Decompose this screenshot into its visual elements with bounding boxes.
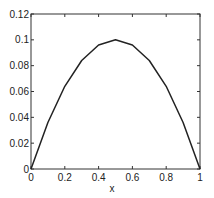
x-axis-label: x	[110, 183, 115, 194]
x-tick-label: 0.8	[159, 172, 173, 183]
y-tick-label: 0.04	[10, 112, 30, 123]
y-tick-label: 0	[23, 164, 29, 175]
y-tick-label: 0.02	[10, 138, 30, 149]
y-tick-label: 0.08	[10, 60, 30, 71]
y-tick-label: 0.12	[10, 9, 30, 20]
x-tick-label: 0.2	[58, 172, 72, 183]
x-tick-label: 0.4	[92, 172, 106, 183]
x-tick-label: 0	[28, 172, 34, 183]
y-tick-label: 0.1	[15, 34, 29, 45]
line-chart: 00.20.40.60.81 00.020.040.060.080.10.12 …	[0, 0, 214, 198]
x-tick-label: 1	[197, 172, 203, 183]
y-tick-label: 0.06	[10, 86, 30, 97]
x-tick-label: 0.6	[125, 172, 139, 183]
plot-area	[31, 14, 200, 169]
